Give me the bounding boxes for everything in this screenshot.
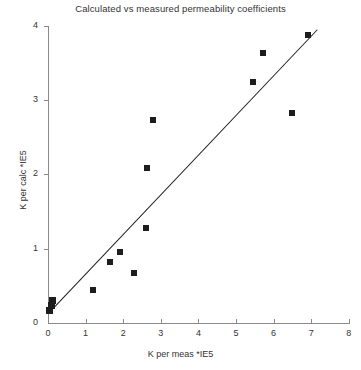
data-point	[260, 50, 266, 56]
x-tick	[236, 319, 237, 323]
y-tick	[44, 26, 48, 27]
x-tick-label: 3	[149, 328, 173, 338]
x-tick-label: 8	[337, 328, 361, 338]
x-tick	[274, 319, 275, 323]
data-point	[117, 249, 123, 255]
y-axis-title: K per calc *IE5	[18, 110, 28, 250]
y-tick	[44, 249, 48, 250]
x-tick-label: 1	[74, 328, 98, 338]
x-tick-label: 6	[262, 328, 286, 338]
data-point	[107, 259, 113, 265]
x-tick	[161, 319, 162, 323]
x-tick-label: 2	[111, 328, 135, 338]
x-axis-title: K per meas *IE5	[0, 349, 361, 359]
data-point	[305, 32, 311, 38]
y-tick	[44, 100, 48, 101]
y-tick	[44, 174, 48, 175]
x-tick-label: 0	[36, 328, 60, 338]
y-axis-line	[48, 26, 49, 324]
data-point	[49, 297, 56, 304]
x-tick	[198, 319, 199, 323]
x-tick-label: 5	[224, 328, 248, 338]
x-axis-line	[48, 323, 350, 324]
x-tick	[123, 319, 124, 323]
x-tick	[311, 319, 312, 323]
x-tick-label: 4	[186, 328, 210, 338]
data-point	[289, 110, 295, 116]
data-point	[144, 165, 150, 171]
chart-figure: Calculated vs measured permeability coef…	[0, 0, 361, 370]
data-point	[250, 79, 256, 85]
x-tick	[86, 319, 87, 323]
x-tick	[48, 319, 49, 323]
data-point	[143, 225, 149, 231]
x-tick-label: 7	[299, 328, 323, 338]
y-tick-label: 4	[22, 20, 38, 30]
x-tick	[349, 319, 350, 323]
data-point	[150, 117, 156, 123]
y-tick-label: 0	[22, 317, 38, 327]
plot-area: 01234567801234	[0, 0, 361, 370]
y-tick-label: 3	[22, 94, 38, 104]
trend-line	[50, 30, 318, 312]
data-point	[90, 287, 96, 293]
data-point	[131, 270, 137, 276]
